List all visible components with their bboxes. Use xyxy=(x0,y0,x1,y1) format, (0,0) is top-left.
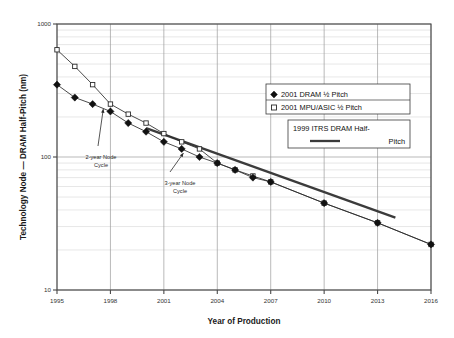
x-tick-label: 2010 xyxy=(317,297,331,304)
annotation-2-year-node-cycle-line1: 2-year Node xyxy=(86,154,117,160)
x-tick-label: 2016 xyxy=(424,297,438,304)
data-point-dram xyxy=(196,153,203,160)
data-point-dram xyxy=(125,119,132,126)
annotation-arrow-2-year xyxy=(98,109,104,146)
x-tick-label: 1998 xyxy=(104,297,118,304)
y-tick-label: 100 xyxy=(41,153,52,160)
y-tick-label: 1000 xyxy=(37,20,51,27)
y-tick-label: 10 xyxy=(44,286,51,293)
legend-label-itrs-line2: Pitch xyxy=(389,137,405,146)
data-point-mpu-asic xyxy=(162,131,166,135)
data-point-mpu-asic xyxy=(144,121,148,125)
annotation-2-year-node-cycle-line2: Cycle xyxy=(94,162,108,168)
legend-label-itrs-line1: 1999 ITRS DRAM Half- xyxy=(293,124,370,133)
annotation-arrow-3-year xyxy=(170,153,183,172)
legend-label-dram: 2001 DRAM ½ Pitch xyxy=(281,90,348,99)
data-point-mpu-asic xyxy=(179,140,183,144)
x-axis-tick-labels: 19951998200120042007201020132016 xyxy=(50,290,438,304)
annotation-3-year-node-cycle-line1: 3-year Node xyxy=(165,180,196,186)
semiconductor-roadmap-chart: 1000100101995199820012004200720102013201… xyxy=(0,0,454,338)
data-point-dram xyxy=(71,94,78,101)
y-axis-title: Technology Node — DRAM Half-Pitch (nm) xyxy=(19,74,28,240)
data-point-dram xyxy=(89,100,96,107)
data-point-dram xyxy=(53,81,60,88)
data-point-mpu-asic xyxy=(90,82,94,86)
x-tick-label: 2004 xyxy=(210,297,224,304)
annotation-3-year-node-cycle-line2: Cycle xyxy=(173,188,187,194)
x-tick-label: 2007 xyxy=(264,297,278,304)
y-axis-tick-labels: 100010010 xyxy=(37,20,57,293)
data-point-dram xyxy=(178,145,185,152)
data-point-mpu-asic xyxy=(73,64,77,68)
data-point-mpu-asic xyxy=(126,112,130,116)
x-axis-title: Year of Production xyxy=(208,317,281,326)
data-point-dram xyxy=(160,138,167,145)
x-tick-label: 2013 xyxy=(371,297,385,304)
x-tick-label: 1995 xyxy=(50,297,64,304)
legend-marker-mpu-asic-square xyxy=(272,105,277,110)
data-point-mpu-asic xyxy=(108,102,112,106)
chart-container: 1000100101995199820012004200720102013201… xyxy=(0,0,454,338)
data-point-dram xyxy=(107,108,114,115)
x-tick-label: 2001 xyxy=(157,297,171,304)
legend-label-mpu-asic: 2001 MPU/ASIC ½ Pitch xyxy=(281,103,362,112)
data-point-mpu-asic xyxy=(197,147,201,151)
data-point-mpu-asic xyxy=(55,48,59,52)
